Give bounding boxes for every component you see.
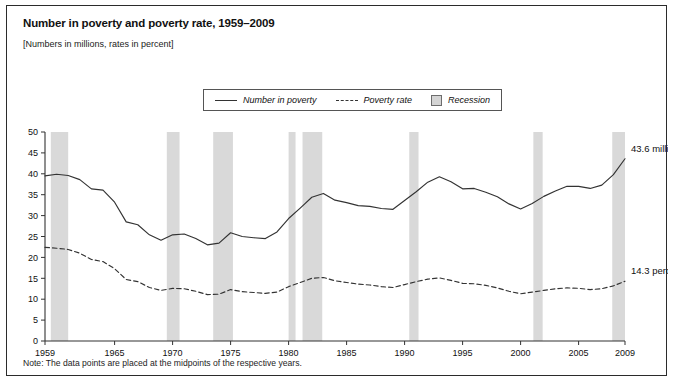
x-tick-label: 1975 <box>221 348 241 358</box>
x-tick-label: 1990 <box>395 348 415 358</box>
y-tick-label: 5 <box>33 315 38 325</box>
value-annotation: 43.6 million <box>631 143 668 154</box>
x-tick-label: 1995 <box>453 348 473 358</box>
y-tick-label: 0 <box>33 336 38 346</box>
y-tick-label: 15 <box>28 274 38 284</box>
recession-band <box>213 132 233 341</box>
recession-band <box>51 132 68 341</box>
x-tick-label: 1965 <box>105 348 125 358</box>
chart-canvas: 05101520253035404550 1959196519701975198… <box>7 6 668 377</box>
recession-band <box>409 132 418 341</box>
x-tick-label: 1980 <box>279 348 299 358</box>
y-tick-label: 25 <box>28 232 38 242</box>
recession-band <box>533 132 542 341</box>
y-tick-label: 30 <box>28 211 38 221</box>
y-tick-label: 35 <box>28 190 38 200</box>
figure-frame: Number in poverty and poverty rate, 1959… <box>6 5 667 376</box>
x-axis-ticks: 1959196519701975198019851990199520002005… <box>35 341 635 358</box>
x-tick-label: 2005 <box>569 348 589 358</box>
recession-band <box>612 132 625 341</box>
y-axis-ticks: 05101520253035404550 <box>28 127 45 346</box>
x-tick-label: 2009 <box>615 348 635 358</box>
y-tick-label: 50 <box>28 127 38 137</box>
recession-band <box>303 132 323 341</box>
y-tick-label: 10 <box>28 294 38 304</box>
y-tick-label: 45 <box>28 148 38 158</box>
x-tick-label: 1959 <box>35 348 55 358</box>
plot-area: 05101520253035404550 1959196519701975198… <box>7 6 668 377</box>
y-tick-label: 40 <box>28 169 38 179</box>
recession-band <box>289 132 296 341</box>
x-tick-label: 2000 <box>511 348 531 358</box>
y-tick-label: 20 <box>28 253 38 263</box>
recession-bands-group <box>51 132 625 341</box>
value-annotation: 14.3 percent <box>631 265 668 276</box>
annotations-group: 43.6 million14.3 percent <box>631 143 668 276</box>
x-tick-label: 1970 <box>163 348 183 358</box>
x-tick-label: 1985 <box>337 348 357 358</box>
chart-note: Note: The data points are placed at the … <box>23 358 302 368</box>
